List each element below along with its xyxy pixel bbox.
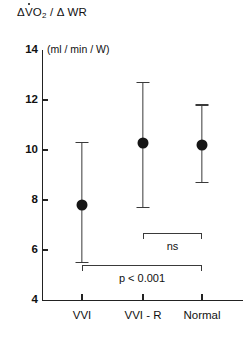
error-bar-cap-upper <box>76 142 89 143</box>
y-axis-tick-label-wrap: 8 <box>8 194 38 206</box>
y-axis-tick <box>43 99 48 100</box>
y-axis-tick-label-wrap: 6 <box>8 244 38 256</box>
y-axis-tick <box>43 199 48 200</box>
significance-label-2: p < 0.001 <box>119 272 165 284</box>
chart-title: ΔVO2 / Δ WR <box>17 6 87 18</box>
y-axis-units-label: (ml / min / W) <box>47 43 109 55</box>
error-bar-cap-upper <box>196 104 209 105</box>
x-axis-tick <box>142 294 143 301</box>
error-bar-cap-lower <box>137 207 150 208</box>
y-axis-tick-label: 14 <box>12 44 38 56</box>
y-axis-tick-label: 10 <box>12 144 38 156</box>
data-point-marker[interactable] <box>77 200 88 211</box>
y-axis-tick-label-wrap: 14 <box>8 44 38 56</box>
y-axis-line <box>42 50 43 301</box>
title-delta-2: Δ <box>57 6 64 18</box>
title-delta-1: Δ <box>17 6 25 18</box>
data-point-marker[interactable] <box>197 140 208 151</box>
error-bar-cap-lower <box>196 182 209 183</box>
y-axis-tick <box>43 149 48 150</box>
title-wr: WR <box>64 6 87 18</box>
x-axis-tick <box>201 294 202 301</box>
x-axis-tick <box>81 294 82 301</box>
y-axis-tick-label: 8 <box>12 194 38 206</box>
x-axis-tick-label-3: Normal <box>183 309 220 321</box>
y-axis-tick-label: 6 <box>12 244 38 256</box>
y-axis-tick-label: 12 <box>12 94 38 106</box>
y-axis-tick <box>43 249 48 250</box>
title-v-dot: V <box>25 6 33 18</box>
y-axis-tick-label-wrap: 4 <box>8 294 38 306</box>
significance-label-1: ns <box>167 240 179 252</box>
significance-bracket-2 <box>82 265 202 271</box>
error-bar-cap-lower <box>76 262 89 263</box>
y-axis-tick-label: 4 <box>12 294 38 306</box>
error-bar-chart: ΔVO2 / Δ WR (ml / min / W) 141210864VVIV… <box>0 0 251 344</box>
error-bar-cap-upper <box>137 82 150 83</box>
x-axis-tick-label-2: VVI - R <box>124 309 161 321</box>
y-axis-tick-label-wrap: 12 <box>8 94 38 106</box>
significance-bracket-1 <box>143 233 202 239</box>
title-subscript-2: 2 <box>42 11 47 20</box>
y-axis-tick-label-wrap: 10 <box>8 144 38 156</box>
x-axis-tick-label-1: VVI <box>73 309 92 321</box>
title-slash: / <box>47 6 57 18</box>
title-o: O <box>33 6 42 18</box>
data-point-marker[interactable] <box>138 137 149 148</box>
